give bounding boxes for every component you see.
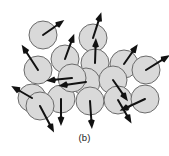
figure-caption: (b) xyxy=(0,132,169,143)
arrow-head xyxy=(68,34,74,43)
arrow-head xyxy=(22,45,29,54)
grain-layer xyxy=(18,21,160,120)
arrow-head xyxy=(161,55,169,62)
arrow-head xyxy=(95,12,101,22)
arrow-shaft xyxy=(95,47,96,63)
arrow-head xyxy=(88,119,95,129)
arrow-head xyxy=(124,114,131,123)
figure-panel-b: (b) xyxy=(0,0,169,156)
arrow-head xyxy=(58,116,65,126)
arrow-shaft xyxy=(90,101,91,120)
